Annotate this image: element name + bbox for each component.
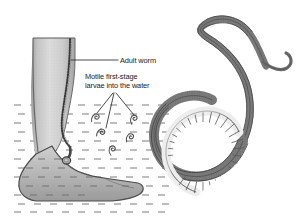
larva [96,128,106,138]
label-motile-larvae: Motile first-stage larvae into the water [85,73,149,90]
larva [130,115,138,124]
label-adult-worm-text: Adult worm [120,56,156,65]
leader-lines [71,60,134,128]
label-adult-worm: Adult worm [120,57,156,66]
illustration-canvas [0,0,307,223]
human-lower-leg [28,36,80,164]
larva [91,113,100,123]
leader-larvae-left [97,93,113,113]
guinea-worm-figure: Adult worm Motile first-stage larvae int… [0,0,307,223]
label-larvae-line2: larvae into the water [85,82,149,91]
leader-larvae-right [116,93,134,115]
adult-worm-specimen [152,16,291,194]
first-stage-larvae [91,113,138,155]
